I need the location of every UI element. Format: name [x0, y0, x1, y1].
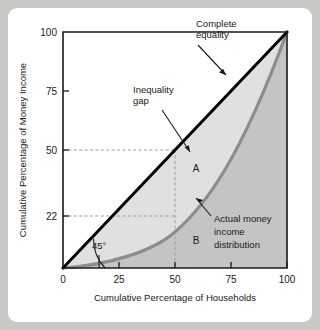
region-label-b: B: [193, 235, 200, 246]
annotation-inequality-gap-line2: gap: [133, 95, 149, 106]
y-tick-label-50: 50: [46, 145, 58, 156]
annotation-actual-distribution-line3: distribution: [214, 239, 260, 250]
x-tick-label-75: 75: [225, 274, 237, 285]
annotation-complete-equality-arrow: [198, 45, 226, 75]
x-tick-label-50: 50: [169, 274, 181, 285]
annotation-inequality-gap-line1: Inequality: [133, 84, 174, 95]
lorenz-curve-chart: 0 25 50 75 100 22 50 75 100 Cumulative P…: [0, 0, 320, 330]
x-tick-label-0: 0: [60, 274, 66, 285]
annotation-inequality-gap-arrow: [162, 110, 190, 152]
x-tick-label-25: 25: [113, 274, 125, 285]
annotation-actual-distribution-line2: income: [214, 226, 245, 237]
y-tick-label-100: 100: [40, 27, 57, 38]
x-tick-label-100: 100: [279, 274, 296, 285]
annotation-angle-45: 45°: [92, 240, 107, 251]
y-tick-label-75: 75: [46, 86, 58, 97]
region-label-a: A: [193, 163, 200, 174]
annotation-actual-distribution-line1: Actual money: [214, 213, 272, 224]
annotation-complete-equality-line1: Complete: [196, 18, 237, 29]
y-axis-ticks: [63, 91, 69, 216]
y-tick-label-22: 22: [46, 211, 58, 222]
x-axis-title: Cumulative Percentage of Households: [94, 292, 256, 303]
annotation-complete-equality-line2: equality: [196, 29, 229, 40]
y-axis-title: Cumulative Percentage of Money Income: [17, 63, 28, 237]
